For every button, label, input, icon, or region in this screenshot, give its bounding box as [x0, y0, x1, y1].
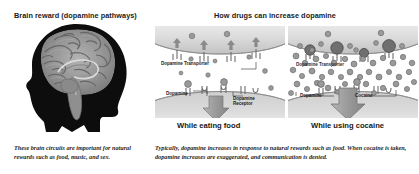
synapse-panel-cocaine: [288, 26, 418, 118]
food-dopamine-transporter-label: Dopamine Transporter: [161, 61, 209, 66]
synapse-panel-food: [155, 26, 285, 118]
subcaption-while-eating-food: While eating food: [177, 121, 240, 130]
cocaine-dopamine-label: Dopamine: [300, 93, 322, 98]
food-receptor-label-line1: Dopamine: [233, 96, 255, 101]
left-panel-caption: These brain circuits are important for n…: [14, 143, 146, 161]
cocaine-dopamine-transporter-label: Dopamine Transporter: [296, 62, 344, 67]
brain-reward-panel: [0, 22, 150, 134]
food-dopamine-receptor-label: Dopamine Receptor: [233, 96, 255, 107]
human-head-profile-with-brain-icon: [18, 22, 136, 134]
subcaption-while-using-cocaine: While using cocaine: [311, 121, 384, 130]
cocaine-label: Cocaine: [355, 93, 373, 98]
left-panel-title: Brain reward (dopamine pathways): [14, 11, 137, 20]
right-section-title: How drugs can increase dopamine: [214, 11, 336, 20]
right-section-caption: Typically, dopamine increases in respons…: [155, 143, 413, 161]
food-dopamine-label: Dopamine: [166, 91, 188, 96]
food-receptor-label-line2: Receptor: [233, 101, 253, 106]
dopamine-pathways-figure: Brain reward (dopamine pathways) How dru…: [0, 0, 419, 174]
